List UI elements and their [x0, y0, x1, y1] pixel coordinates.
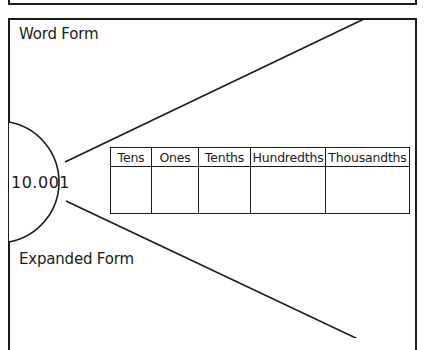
expanded-form-label: Expanded Form	[19, 250, 134, 268]
lower-divider-line	[66, 201, 360, 338]
table-row	[111, 167, 410, 214]
place-value-table: Tens Ones Tenths Hundredths Thousandths	[110, 147, 410, 214]
header-hundredths: Hundredths	[251, 148, 326, 167]
header-thousandths: Thousandths	[326, 148, 410, 167]
table-header-row: Tens Ones Tenths Hundredths Thousandths	[111, 148, 410, 167]
word-form-label: Word Form	[19, 25, 98, 43]
cell-ones[interactable]	[152, 167, 199, 214]
header-tenths: Tenths	[199, 148, 251, 167]
center-number: 10.001	[11, 173, 70, 192]
header-ones: Ones	[152, 148, 199, 167]
cell-tens[interactable]	[111, 167, 152, 214]
upper-divider-line	[65, 19, 364, 162]
cell-hundredths[interactable]	[251, 167, 326, 214]
header-tens: Tens	[111, 148, 152, 167]
cell-tenths[interactable]	[199, 167, 251, 214]
cell-thousandths[interactable]	[326, 167, 410, 214]
